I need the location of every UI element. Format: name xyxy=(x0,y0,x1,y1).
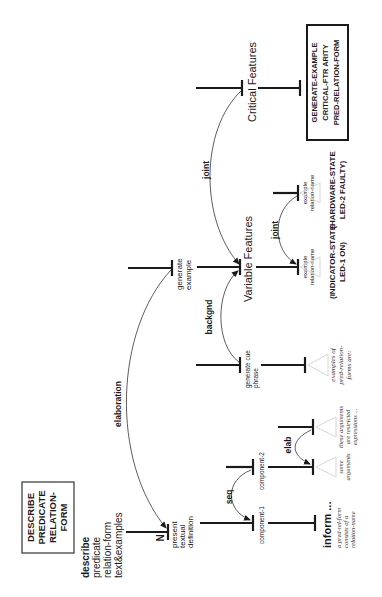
critical-box-line-3: PRED-RELATION-FORM xyxy=(332,40,341,126)
some-arguments-triangle-icon xyxy=(316,457,336,477)
root-label-line-3: relation-form xyxy=(102,522,113,578)
these-arguments-triangle-icon xyxy=(316,417,336,437)
example-1-value-line-1: (INDICATOR-STATE xyxy=(328,224,337,299)
example-2-line-1: example xyxy=(302,181,308,204)
example-2-node: example relation-name (HARDWARE-STATE LE… xyxy=(273,151,347,229)
joint-examples-label: joint xyxy=(270,221,280,240)
some-arguments-line-1: some xyxy=(337,460,344,473)
example-1-line-2: relation-name xyxy=(309,248,315,285)
goal-box-line-2: PREDICATE xyxy=(36,490,47,544)
elaboration-arc xyxy=(126,270,171,528)
joint-examples-relation: joint xyxy=(270,196,297,264)
goal-box-line-4: FORM xyxy=(58,503,69,531)
elaboration-relation: elaboration xyxy=(113,270,171,528)
seq-relation: seq xyxy=(224,470,251,520)
critical-box-line-2: CRITICAL-FTR ARITY xyxy=(321,44,330,120)
present-textual-definition-node: N present textual definition xyxy=(155,516,253,548)
component-1-label: component-1 xyxy=(258,506,266,544)
some-arguments-node: some arguments xyxy=(313,453,351,481)
inform-node: inform ... a pred-rel-form consists of a… xyxy=(315,502,356,548)
backgnd-relation: backgnd xyxy=(204,271,239,362)
elaboration-label: elaboration xyxy=(113,381,123,427)
goal-box-line-1: DESCRIBE xyxy=(25,493,36,542)
critical-features-node: Critical Features xyxy=(196,41,300,122)
these-arguments-line-1: these arguments xyxy=(337,405,344,448)
these-arguments-line-2: are restricted xyxy=(344,409,351,444)
variable-features-label: Variable Features xyxy=(242,215,254,302)
inform-label: inform ... xyxy=(321,502,333,548)
example-2-value-line-1: (HARDWARE-STATE xyxy=(328,151,337,229)
elab-arc xyxy=(295,430,311,464)
seq-label: seq xyxy=(224,490,234,505)
cue-examples-triangle-icon xyxy=(308,354,328,376)
cue-examples-line-1: examples of xyxy=(329,347,337,381)
goal-box: DESCRIBE PREDICATE RELATION- FORM xyxy=(22,482,74,553)
cue-examples-line-2: pred-relation- xyxy=(337,345,345,386)
root-label-line-4: text&examples xyxy=(113,512,124,578)
some-arguments-line-2: arguments xyxy=(344,453,351,481)
generate-example-label-line-2: example xyxy=(184,259,193,290)
elab-label: elab xyxy=(283,436,293,453)
inform-text-line-3: relation-name xyxy=(349,511,356,548)
seq-arc xyxy=(231,470,251,520)
root-label-line-1: describe xyxy=(80,536,91,578)
joint-critical-relation: joint xyxy=(201,91,241,264)
cue-examples-line-3: forms are: xyxy=(345,350,353,379)
generate-cue-phrase-line-2: phrase xyxy=(252,368,260,388)
example-2-line-2: relation-name xyxy=(309,174,315,211)
example-1-node: example relation-name (INDICATOR-STATE L… xyxy=(298,224,347,299)
root-label-line-2: predicate xyxy=(91,536,102,578)
critical-box-line-1: GENERATE-EXAMPLE xyxy=(310,43,319,123)
elab-relation: elab xyxy=(283,430,311,464)
generate-cue-phrase-node: generate cue phrase examples of pred-rel… xyxy=(196,345,353,388)
generate-example-node: generate example xyxy=(128,258,240,290)
goal-box-line-3: RELATION- xyxy=(47,492,58,543)
rst-plan-diagram: DESCRIBE PREDICATE RELATION- FORM descri… xyxy=(0,0,382,597)
present-label-line-3: definition xyxy=(186,516,195,548)
component-2-label: component-2 xyxy=(258,452,266,490)
component-1-node: component-1 xyxy=(253,506,315,544)
these-arguments-line-3: expressions ... xyxy=(351,408,358,445)
inform-text-line-1: a pred-rel-form xyxy=(335,508,342,548)
joint-critical-label: joint xyxy=(201,161,211,180)
inform-text-line-2: consists of a xyxy=(342,516,349,548)
example-1-line-1: example xyxy=(302,255,308,278)
backgnd-arc xyxy=(221,271,239,362)
example-1-value-line-2: LED-1 ON) xyxy=(338,242,347,282)
critical-box: GENERATE-EXAMPLE CRITICAL-FTR ARITY PRED… xyxy=(307,25,348,140)
generate-cue-phrase-line-1: generate cue xyxy=(244,350,252,388)
critical-features-label: Critical Features xyxy=(246,41,258,122)
backgnd-label: backgnd xyxy=(204,300,214,335)
nucleus-mark: N xyxy=(155,534,166,541)
joint-critical-arc xyxy=(210,91,241,264)
joint-examples-arc xyxy=(278,196,297,264)
root-node: describe predicate relation-form text&ex… xyxy=(80,512,168,578)
generate-example-label-line-1: generate xyxy=(175,258,184,290)
example-2-value-line-2: LED-2 FAULTY) xyxy=(338,160,347,219)
